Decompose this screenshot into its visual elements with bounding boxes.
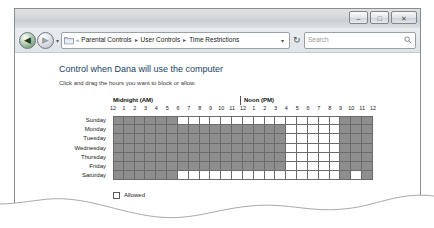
schedule-cell[interactable]	[330, 144, 341, 153]
schedule-cell[interactable]	[308, 116, 319, 125]
schedule-cell[interactable]	[254, 125, 265, 134]
schedule-cell[interactable]	[308, 144, 319, 153]
schedule-cell[interactable]	[200, 144, 211, 153]
schedule-cell[interactable]	[221, 144, 232, 153]
schedule-row-monday[interactable]	[113, 125, 373, 134]
breadcrumb-arrow-icon[interactable]: ▸	[135, 37, 138, 43]
schedule-cell[interactable]	[362, 144, 373, 153]
schedule-cell[interactable]	[124, 171, 135, 180]
schedule-cell[interactable]	[135, 125, 146, 134]
schedule-cell[interactable]	[351, 125, 362, 134]
schedule-cell[interactable]	[275, 153, 286, 162]
schedule-cell[interactable]	[254, 144, 265, 153]
schedule-cell[interactable]	[319, 162, 330, 171]
schedule-cell[interactable]	[340, 144, 351, 153]
schedule-cell[interactable]	[167, 125, 178, 134]
schedule-row-thursday[interactable]	[113, 153, 373, 162]
schedule-cell[interactable]	[265, 144, 276, 153]
schedule-cell[interactable]	[254, 162, 265, 171]
schedule-cell[interactable]	[210, 162, 221, 171]
schedule-cell[interactable]	[340, 134, 351, 143]
schedule-cell[interactable]	[286, 134, 297, 143]
schedule-cell[interactable]	[156, 144, 167, 153]
schedule-cell[interactable]	[308, 171, 319, 180]
schedule-cell[interactable]	[319, 144, 330, 153]
schedule-cell[interactable]	[200, 125, 211, 134]
schedule-cell[interactable]	[362, 162, 373, 171]
breadcrumb-item-time-restrictions[interactable]: Time Restrictions	[189, 37, 239, 44]
schedule-cell[interactable]	[243, 125, 254, 134]
forward-button[interactable]: ▶	[37, 32, 54, 49]
schedule-cell[interactable]	[210, 134, 221, 143]
schedule-cell[interactable]	[200, 162, 211, 171]
schedule-cell[interactable]	[178, 134, 189, 143]
schedule-cell[interactable]	[351, 153, 362, 162]
schedule-cell[interactable]	[200, 116, 211, 125]
search-input[interactable]: Search	[304, 32, 416, 49]
schedule-cell[interactable]	[340, 125, 351, 134]
schedule-cell[interactable]	[232, 144, 243, 153]
schedule-cell[interactable]	[232, 134, 243, 143]
schedule-cell[interactable]	[254, 171, 265, 180]
schedule-cell[interactable]	[351, 171, 362, 180]
schedule-cell[interactable]	[243, 116, 254, 125]
schedule-cell[interactable]	[286, 116, 297, 125]
breadcrumb-arrow-icon[interactable]: ▸	[183, 37, 186, 43]
schedule-cell[interactable]	[297, 125, 308, 134]
schedule-cell[interactable]	[178, 125, 189, 134]
schedule-cell[interactable]	[319, 153, 330, 162]
schedule-cell[interactable]	[275, 134, 286, 143]
schedule-cell[interactable]	[330, 171, 341, 180]
schedule-cell[interactable]	[124, 144, 135, 153]
schedule-cell[interactable]	[200, 153, 211, 162]
schedule-cell[interactable]	[221, 116, 232, 125]
schedule-cell[interactable]	[275, 125, 286, 134]
schedule-cell[interactable]	[351, 144, 362, 153]
schedule-cell[interactable]	[265, 116, 276, 125]
schedule-cell[interactable]	[189, 144, 200, 153]
schedule-cell[interactable]	[189, 134, 200, 143]
schedule-cell[interactable]	[113, 144, 124, 153]
schedule-cell[interactable]	[145, 171, 156, 180]
schedule-cell[interactable]	[275, 162, 286, 171]
schedule-cell[interactable]	[135, 116, 146, 125]
schedule-cell[interactable]	[124, 134, 135, 143]
schedule-cell[interactable]	[265, 162, 276, 171]
schedule-cell[interactable]	[135, 162, 146, 171]
schedule-cell[interactable]	[178, 153, 189, 162]
schedule-row-sunday[interactable]	[113, 116, 373, 125]
schedule-cell[interactable]	[297, 144, 308, 153]
schedule-row-tuesday[interactable]	[113, 134, 373, 143]
schedule-cell[interactable]	[330, 125, 341, 134]
refresh-icon[interactable]: ↻	[293, 36, 301, 45]
schedule-cell[interactable]	[178, 171, 189, 180]
schedule-cell[interactable]	[167, 171, 178, 180]
breadcrumb-item-user-controls[interactable]: User Controls	[141, 37, 181, 44]
schedule-cell[interactable]	[221, 134, 232, 143]
schedule-cell[interactable]	[167, 116, 178, 125]
maximize-button[interactable]: □	[370, 11, 389, 24]
schedule-cell[interactable]	[275, 116, 286, 125]
schedule-cell[interactable]	[362, 116, 373, 125]
schedule-cell[interactable]	[167, 144, 178, 153]
schedule-cell[interactable]	[265, 153, 276, 162]
schedule-cell[interactable]	[135, 144, 146, 153]
schedule-cell[interactable]	[254, 134, 265, 143]
schedule-cell[interactable]	[178, 144, 189, 153]
schedule-cell[interactable]	[210, 116, 221, 125]
schedule-cell[interactable]	[286, 171, 297, 180]
schedule-cell[interactable]	[232, 125, 243, 134]
breadcrumb-item-parental-controls[interactable]: Parental Controls	[81, 37, 131, 44]
schedule-cell[interactable]	[308, 134, 319, 143]
address-dropdown-icon[interactable]: ▾	[278, 37, 287, 44]
schedule-cell[interactable]	[286, 125, 297, 134]
schedule-cell[interactable]	[232, 162, 243, 171]
address-input[interactable]: « Parental Controls ▸ User Controls ▸ Ti…	[61, 32, 290, 49]
schedule-cell[interactable]	[243, 153, 254, 162]
close-button[interactable]: ✕	[391, 11, 417, 24]
schedule-cell[interactable]	[210, 125, 221, 134]
schedule-cell[interactable]	[156, 134, 167, 143]
schedule-cell[interactable]	[254, 153, 265, 162]
breadcrumb-overflow-icon[interactable]: «	[76, 37, 79, 43]
schedule-cell[interactable]	[340, 153, 351, 162]
